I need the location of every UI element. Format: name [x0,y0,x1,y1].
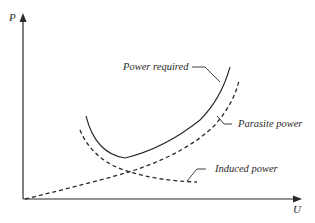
x-axis-label: U [293,203,302,215]
induced-power-curve [80,130,197,182]
power-curve-diagram: P U Power required Parasite power Induce… [0,0,315,223]
parasite-power-label: Parasite power [237,118,303,129]
power-required-curve [86,67,230,158]
power-required-leader [192,67,220,82]
parasite-power-curve [25,80,239,199]
induced-power-leader [187,169,206,181]
x-axis-arrow-icon [293,196,302,203]
power-required-label: Power required [122,61,189,72]
y-axis-label: P [8,11,16,23]
y-axis-arrow-icon [20,13,27,22]
induced-power-label: Induced power [214,163,279,174]
